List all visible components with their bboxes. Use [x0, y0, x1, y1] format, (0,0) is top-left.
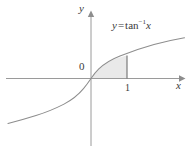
- y-axis-arrow-icon: [88, 11, 94, 18]
- x-axis-label: x: [176, 80, 181, 91]
- x-tick-label-1: 1: [125, 83, 130, 93]
- curve-equation-label: y=tan−1x: [112, 20, 151, 31]
- equation-argument: x: [146, 19, 151, 31]
- equation-exponent: −1: [139, 18, 146, 26]
- equation-equals-sign: =: [117, 19, 125, 31]
- arctan-figure: y x 0 1 y=tan−1x: [0, 0, 187, 149]
- equation-function-name: tan: [125, 19, 138, 31]
- shaded-area-under-curve: [91, 56, 127, 79]
- origin-label: 0: [79, 61, 85, 72]
- arctan-curve: [8, 38, 185, 124]
- plot-canvas: [0, 0, 187, 149]
- y-axis-label: y: [79, 3, 84, 14]
